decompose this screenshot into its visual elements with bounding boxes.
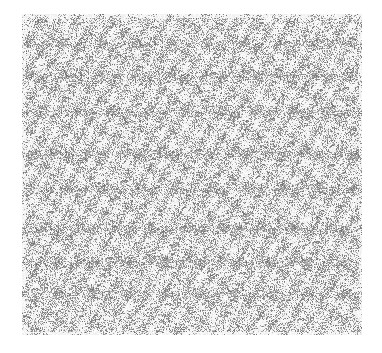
noise-texture-image: [22, 14, 362, 335]
texture-canvas: [22, 14, 362, 335]
